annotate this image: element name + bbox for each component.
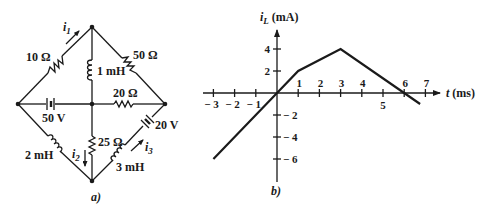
x-axis-label: t(ms) <box>446 86 475 100</box>
resistor-20-ohm-icon <box>114 101 133 107</box>
current-arrow-i3-icon <box>131 140 143 151</box>
y-tick-label: − 4 <box>283 131 298 143</box>
node-right <box>163 102 168 107</box>
y-axis-label: iL(mA) <box>260 10 299 26</box>
node-middle <box>90 102 95 107</box>
y-tick-label: 2 <box>265 65 271 77</box>
x-tick-label: 3 <box>339 77 345 89</box>
label-20-ohm: 20 Ω <box>113 86 138 100</box>
y-tick-label: − 6 <box>283 153 298 165</box>
label-10-ohm: 10 Ω <box>26 50 51 64</box>
figure-canvas: 10 Ω i1 50 Ω 1 mH <box>0 0 501 219</box>
label-50v: 50 V <box>42 111 66 125</box>
caption-b: b) <box>271 184 281 198</box>
node-left <box>16 102 21 107</box>
current-graph: iL(mA) t(ms) − 3− 2− 11234567 42− 2− 4− … <box>203 10 475 198</box>
current-label-i2: i2 <box>72 147 80 163</box>
x-tick-label: − 2 <box>225 98 240 110</box>
x-tick-label: − 1 <box>247 98 262 110</box>
current-label-i1: i1 <box>63 20 71 36</box>
series-il-line <box>213 49 420 159</box>
branch-20-ohm-resistor: 20 Ω <box>92 86 165 107</box>
y-tick-label: − 2 <box>283 109 298 121</box>
battery-50v-icon <box>47 98 54 110</box>
inductor-1mh-icon <box>88 60 93 80</box>
x-axis-ticks: − 3− 2− 11234567 <box>204 77 430 111</box>
label-25-ohm: 25 Ω <box>98 135 123 149</box>
x-tick-label: 2 <box>318 77 324 89</box>
y-axis-ticks: 42− 2− 4− 6 <box>265 43 299 165</box>
x-tick-label: 1 <box>296 77 302 89</box>
current-label-i3: i3 <box>145 140 153 156</box>
label-20v: 20 V <box>155 118 179 132</box>
label-50-ohm: 50 Ω <box>133 48 158 62</box>
circuit-diagram: 10 Ω i1 50 Ω 1 mH <box>16 20 179 204</box>
x-tick-label: − 3 <box>204 98 219 110</box>
x-tick-label: 6 <box>402 77 408 89</box>
label-2mh: 2 mH <box>25 148 54 162</box>
resistor-25-ohm-icon <box>89 136 95 155</box>
caption-a: a) <box>91 190 101 204</box>
label-1mh: 1 mH <box>97 64 126 78</box>
node-top <box>90 25 95 30</box>
label-3mh: 3 mH <box>116 160 145 174</box>
branch-50v-battery: 50 V <box>18 98 92 125</box>
y-tick-label: 4 <box>265 43 271 55</box>
branch-10-ohm-resistor: 10 Ω i1 <box>18 20 92 104</box>
node-bottom <box>90 179 95 184</box>
x-tick-label: 7 <box>424 77 430 89</box>
x-tick-label: 4 <box>360 77 366 89</box>
x-tick-label: 5 <box>380 99 386 111</box>
